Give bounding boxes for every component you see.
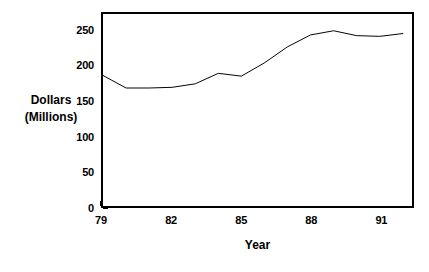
data-series-line (103, 14, 412, 206)
y-axis-tick-label: 0 (0, 202, 94, 214)
plot-area (101, 12, 414, 208)
chart-figure: Dollars (Millions) 050100150200250798285… (0, 0, 429, 272)
y-axis-tick-label: 250 (0, 24, 94, 36)
x-axis-tick-label: 85 (235, 214, 247, 226)
x-axis-tick-label: 88 (305, 214, 317, 226)
x-axis-tick-label: 79 (95, 214, 107, 226)
x-axis-title: Year (101, 238, 414, 252)
y-axis-tick-label: 150 (0, 95, 94, 107)
x-axis-tick-label: 91 (375, 214, 387, 226)
y-axis-tick-label: 200 (0, 59, 94, 71)
y-axis-tick-label: 50 (0, 166, 94, 178)
y-axis-tick-label: 100 (0, 131, 94, 143)
x-axis-tick-label: 82 (165, 214, 177, 226)
